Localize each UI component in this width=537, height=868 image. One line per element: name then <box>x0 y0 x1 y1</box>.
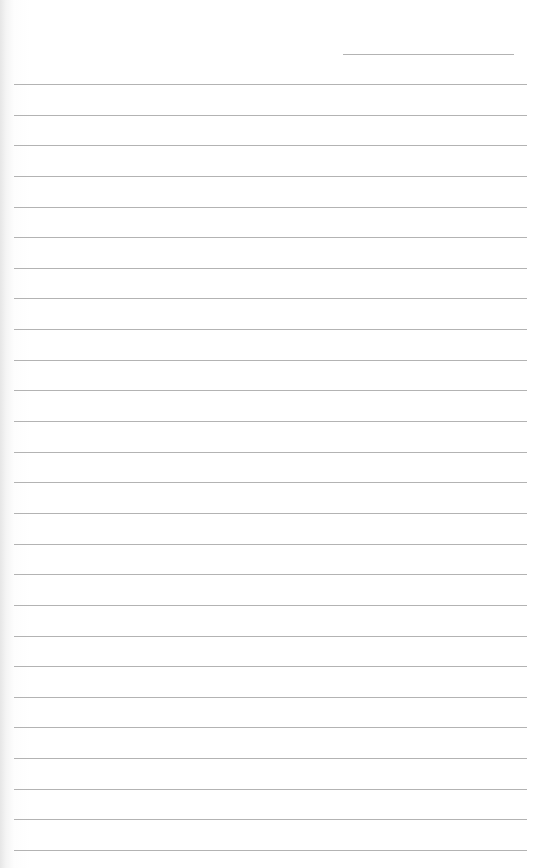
ruled-line <box>14 666 527 667</box>
ruled-line <box>14 237 527 238</box>
ruled-line <box>14 207 527 208</box>
ruled-line <box>14 360 527 361</box>
ruled-line <box>14 513 527 514</box>
ruled-line <box>14 789 527 790</box>
ruled-line <box>14 421 527 422</box>
ruled-line <box>14 84 527 85</box>
lined-paper-page <box>0 0 537 868</box>
ruled-line <box>14 758 527 759</box>
ruled-line <box>14 697 527 698</box>
ruled-line <box>14 452 527 453</box>
ruled-line <box>14 115 527 116</box>
header-rule-line <box>343 54 514 55</box>
ruled-line <box>14 390 527 391</box>
ruled-line <box>14 727 527 728</box>
ruled-line <box>14 544 527 545</box>
ruled-line <box>14 329 527 330</box>
ruled-line <box>14 819 527 820</box>
ruled-line <box>14 636 527 637</box>
ruled-line <box>14 145 527 146</box>
ruled-line <box>14 298 527 299</box>
ruled-line <box>14 268 527 269</box>
ruled-line <box>14 176 527 177</box>
ruled-line <box>14 574 527 575</box>
ruled-line <box>14 482 527 483</box>
ruled-line <box>14 850 527 851</box>
ruled-line <box>14 605 527 606</box>
